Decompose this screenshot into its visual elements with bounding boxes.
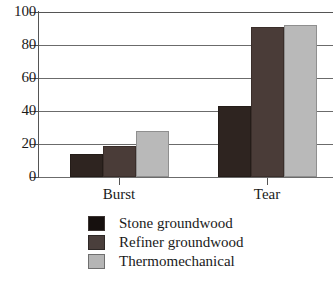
legend-label-refiner-groundwood: Refiner groundwood	[119, 234, 244, 251]
bar-tear-refiner-groundwood	[251, 27, 284, 177]
x-axis-label-tear: Tear	[207, 186, 327, 203]
legend-label-thermomechanical: Thermomechanical	[119, 253, 235, 270]
legend-label-stone-groundwood: Stone groundwood	[119, 215, 233, 232]
x-tick-mark-burst	[119, 178, 120, 185]
gridline-100	[38, 12, 333, 13]
bar-tear-stone-groundwood	[218, 106, 251, 177]
legend-swatch-icon-refiner-groundwood	[88, 235, 105, 250]
gridline-0	[38, 177, 333, 178]
y-tick-label-40: 40	[0, 103, 36, 118]
bar-burst-refiner-groundwood	[103, 146, 136, 177]
x-axis-label-burst: Burst	[59, 186, 179, 203]
y-tick-label-60: 60	[0, 70, 36, 85]
legend-item-thermomechanical: Thermomechanical	[88, 252, 308, 271]
bar-burst-stone-groundwood	[70, 154, 103, 177]
plot-area	[38, 12, 333, 177]
y-tick-label-0: 0	[0, 169, 36, 184]
legend-item-stone-groundwood: Stone groundwood	[88, 214, 308, 233]
y-tick-label-80: 80	[0, 37, 36, 52]
legend-item-refiner-groundwood: Refiner groundwood	[88, 233, 308, 252]
y-tick-label-100: 100	[0, 4, 36, 19]
legend-swatch-icon-thermomechanical	[88, 254, 105, 269]
bar-burst-thermomechanical	[136, 131, 169, 177]
y-tick-label-20: 20	[0, 136, 36, 151]
y-axis-line	[38, 11, 39, 178]
bar-chart-figure: 100 80 60 40 20 0 Burst Tear Stone groun…	[0, 0, 335, 281]
legend-swatch-icon-stone-groundwood	[88, 216, 105, 231]
bar-tear-thermomechanical	[284, 25, 317, 177]
x-tick-mark-tear	[267, 178, 268, 185]
chart-legend: Stone groundwood Refiner groundwood Ther…	[88, 214, 308, 271]
